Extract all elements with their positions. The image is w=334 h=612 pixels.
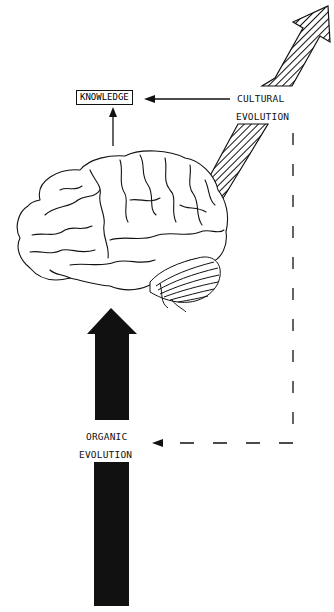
organic-evolution-label-line1: ORGANIC (86, 431, 127, 442)
cultural-evolution-label-line2: EVOLUTION (236, 111, 289, 122)
hatched-arrow-upper (262, 6, 330, 86)
arrow-cultural-to-knowledge (144, 95, 230, 103)
cultural-evolution-label-line1: CULTURAL (237, 93, 284, 104)
organic-evolution-label-line2: EVOLUTION (79, 449, 132, 460)
knowledge-box: KNOWLEDGE (76, 90, 133, 105)
arrow-brain-to-knowledge (109, 107, 117, 146)
diagram-canvas (0, 0, 334, 612)
knowledge-label: KNOWLEDGE (80, 92, 129, 102)
